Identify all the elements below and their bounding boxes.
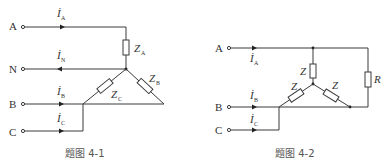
impedance-z-vertical-label: Z <box>300 65 307 77</box>
terminal-label-b: B <box>9 98 16 110</box>
arrow-ic-icon <box>252 128 257 133</box>
resistor-r-label: R <box>373 73 381 85</box>
terminal-label-a: A <box>215 42 223 54</box>
current-ib-sub: B <box>61 93 65 99</box>
terminal-a <box>21 25 24 28</box>
impedance-za-label: Z <box>134 42 141 54</box>
impedance-za-sub: A <box>141 50 146 56</box>
arrow-ib-icon <box>252 105 257 110</box>
arrow-ic-icon <box>59 129 64 134</box>
wire-c <box>25 104 83 131</box>
terminal-label-a: A <box>9 20 17 32</box>
terminal-b <box>227 105 230 108</box>
impedance-zc-sub: C <box>118 96 122 102</box>
wire-r-return <box>350 87 368 107</box>
current-ib-sub: B <box>254 97 258 103</box>
impedance-z-left-label: Z <box>291 80 298 92</box>
terminal-label-c: C <box>9 126 16 138</box>
resistor-za <box>123 40 129 55</box>
terminal-label-c: C <box>215 124 222 136</box>
current-in-sub: N <box>61 57 66 63</box>
terminal-c <box>227 128 230 131</box>
caption-4-2: 题图 4-2 <box>275 148 315 159</box>
caption-4-1: 题图 4-1 <box>65 148 105 159</box>
current-ic-sub: C <box>254 121 258 127</box>
terminal-n <box>21 67 24 70</box>
terminal-label-b: B <box>215 101 222 113</box>
arrow-ib-icon <box>59 102 64 107</box>
terminal-b <box>21 102 24 105</box>
figure-4-2: A B C İ <box>215 42 381 159</box>
resistor-r <box>365 72 371 87</box>
terminal-label-n: N <box>9 63 17 75</box>
circuit-diagrams: A N B C İ <box>0 0 386 168</box>
arrow-ia-icon <box>60 25 65 30</box>
current-ia-sub: A <box>254 60 259 66</box>
terminal-c <box>21 129 24 132</box>
resistor-z-vertical <box>310 64 316 78</box>
arrow-ia-icon <box>252 46 257 51</box>
arrow-in-icon <box>57 67 62 72</box>
wire-a <box>25 27 126 40</box>
impedance-z-right-label: Z <box>332 79 339 91</box>
impedance-zb-sub: B <box>156 80 160 86</box>
impedance-zc-label: Z <box>111 88 118 100</box>
figure-4-1: A N B C İ <box>9 7 164 159</box>
current-ia-sub: A <box>61 15 66 21</box>
terminal-a <box>227 46 230 49</box>
current-ic-sub: C <box>61 120 65 126</box>
impedance-zb-label: Z <box>149 72 156 84</box>
